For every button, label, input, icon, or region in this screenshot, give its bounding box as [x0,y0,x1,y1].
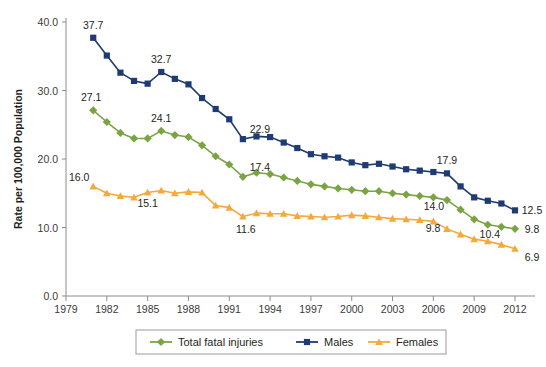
data-point [104,52,110,58]
data-point [471,194,477,200]
data-point-label: 24.1 [151,112,172,124]
x-axis-tick-label: 1997 [299,303,323,315]
data-point-label: 12.5 [522,204,543,216]
line-chart: 0.010.020.030.040.0 19791982198519881991… [0,0,546,367]
data-point-label: 9.8 [525,223,540,235]
data-point [281,139,287,145]
data-point [213,106,219,112]
data-point [117,70,123,76]
data-point [199,95,205,101]
data-point [498,200,504,206]
y-axis-tick-label: 40.0 [38,16,59,28]
y-axis-title-text: Rate per 100,000 Population [12,89,24,229]
data-point-label: 37.7 [83,19,104,31]
data-point [362,162,368,168]
x-axis-tick-label: 2012 [503,303,527,315]
x-axis-tick-label: 2003 [381,303,405,315]
data-point [417,168,423,174]
data-point [457,183,463,189]
data-point [226,116,232,122]
x-axis-tick-label: 2000 [340,303,364,315]
data-point [349,159,355,165]
data-point-label: 17.4 [250,161,271,173]
data-point [131,78,137,84]
data-point [444,170,450,176]
chart-legend[interactable]: Total fatal injuriesMalesFemales [136,330,446,354]
legend-item-label: Total fatal injuries [178,336,263,348]
data-point-label: 14.0 [424,200,445,212]
data-point-label: 6.9 [525,251,540,263]
data-point [485,198,491,204]
data-point-label: 11.6 [236,223,256,235]
legend-item-label: Females [396,336,439,348]
data-point [145,81,151,87]
data-point [321,153,327,159]
data-point-label: 22.9 [250,123,271,135]
x-axis-tick-label: 1991 [218,303,242,315]
data-point [335,155,341,161]
y-axis-title: Rate per 100,000 Population [12,89,24,229]
x-axis-tick-label: 1985 [136,303,160,315]
data-point [308,151,314,157]
data-point [90,35,96,41]
legend-item-label: Males [324,336,354,348]
x-axis-tick-label: 1994 [258,303,282,315]
x-axis-tick-label: 1982 [95,303,119,315]
data-point [389,163,395,169]
data-point-label: 10.4 [480,228,501,240]
data-point [185,81,191,87]
data-point-label: 17.9 [437,154,458,166]
x-axis-tick-label: 2009 [463,303,487,315]
data-point-label: 9.8 [426,222,441,234]
data-point [430,169,436,175]
chart-canvas: 0.010.020.030.040.0 19791982198519881991… [0,0,546,367]
data-point [240,136,246,142]
data-point [172,76,178,82]
data-point-label: 15.1 [137,197,158,209]
legend-marker-icon [304,339,310,345]
data-point [294,145,300,151]
data-point [376,161,382,167]
y-axis-tick-label: 20.0 [38,153,59,165]
data-point [512,207,518,213]
data-point-label: 27.1 [81,91,102,103]
data-point [158,69,164,75]
y-axis-tick-label: 10.0 [38,222,59,234]
y-axis-tick-label: 30.0 [38,85,59,97]
x-axis-tick-label: 2006 [422,303,446,315]
data-point-label: 32.7 [151,53,172,65]
x-axis-tick-label: 1988 [177,303,201,315]
data-point [403,166,409,172]
x-axis-tick-label: 1979 [54,303,78,315]
y-axis-tick-label: 0.0 [43,290,58,302]
data-point-label: 16.0 [69,171,90,183]
